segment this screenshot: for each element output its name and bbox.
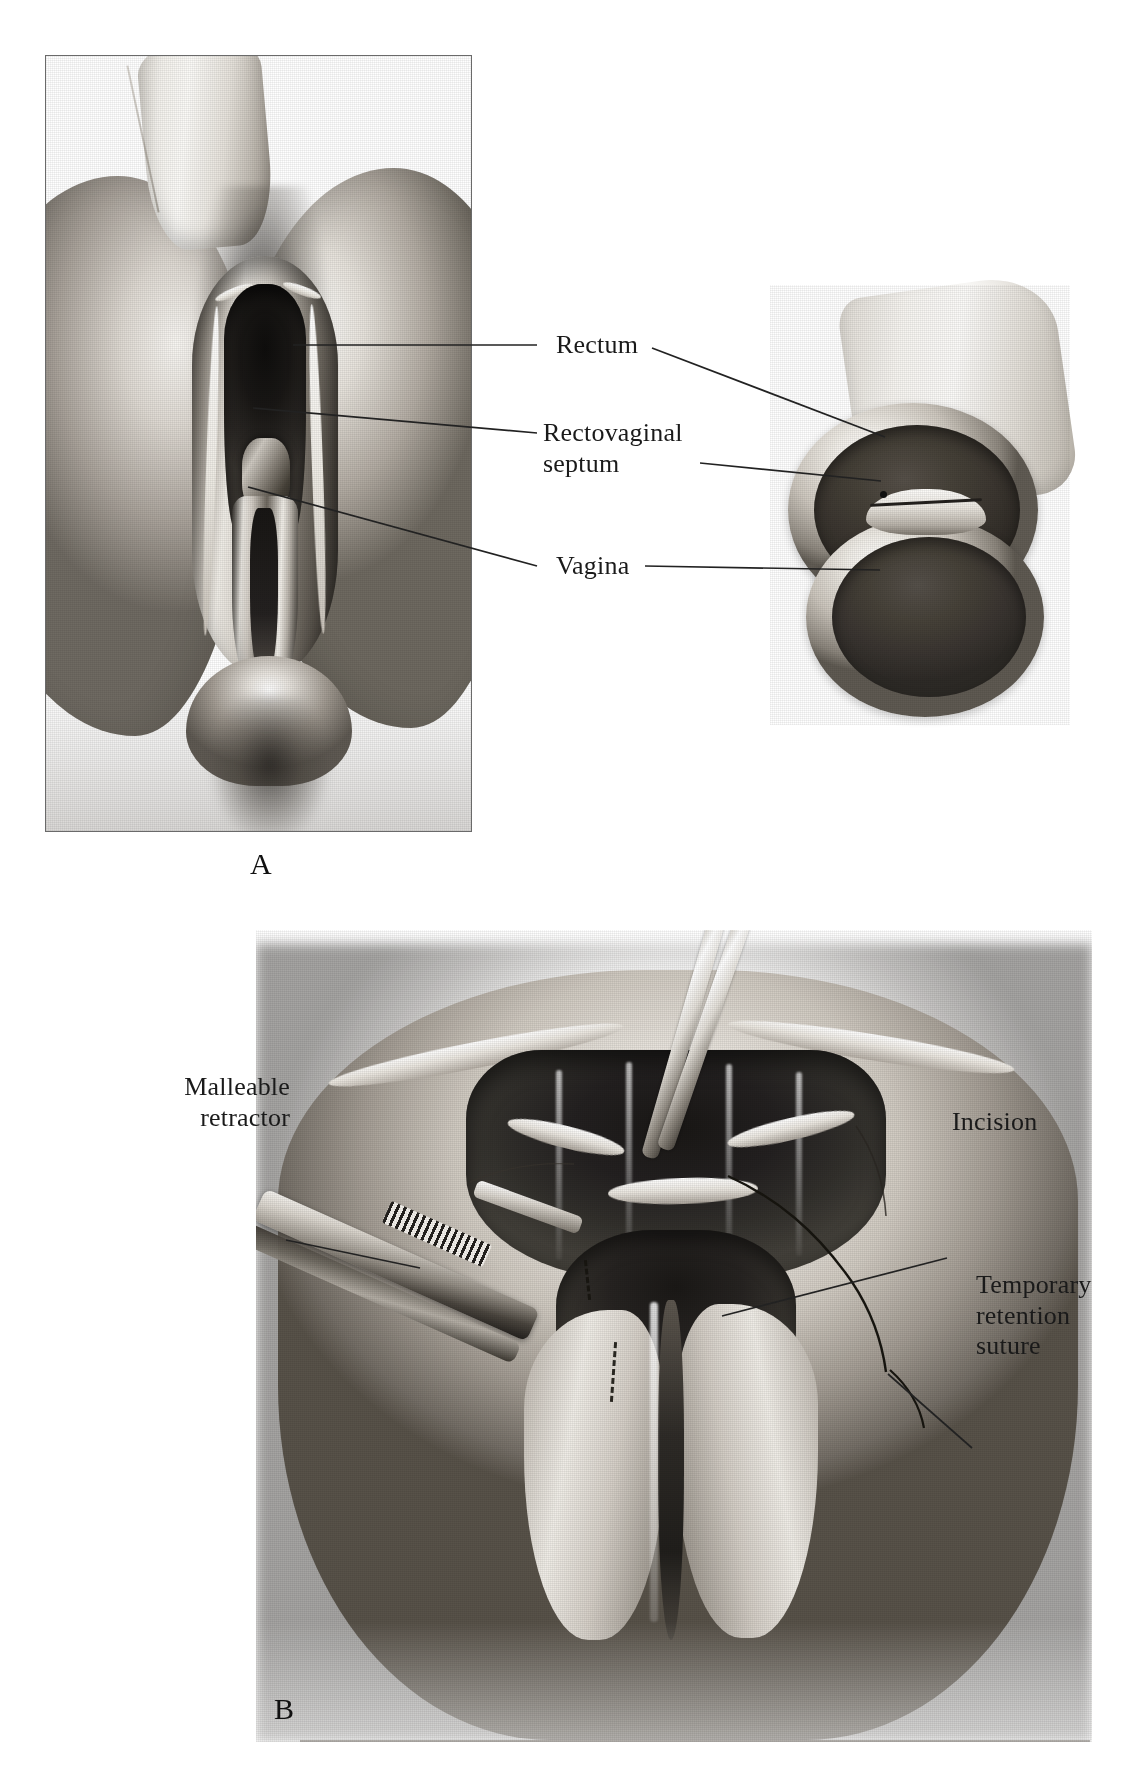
panel-b-baseline [300,1740,1090,1742]
introitus-midline-highlight [650,1302,658,1622]
panel-a-image-frame [45,55,472,832]
lower-shading [46,681,471,831]
introitus-midline [658,1300,684,1640]
panel-b-bottom-fade [256,1622,1092,1742]
label-rectum: Rectum [556,330,638,361]
figure-page: Rectum Rectovaginal septum Vagina Mallea… [0,0,1142,1766]
introitus-left-fold [524,1310,664,1640]
introitus-right-fold [676,1304,818,1638]
rectal-fold-1 [556,1070,562,1260]
vagina-lumen [832,537,1026,697]
rectal-fold-4 [796,1072,802,1256]
rectal-fold-3 [726,1064,732,1260]
label-malleable-retractor: Malleable retractor [120,1072,290,1133]
label-rectovaginal-septum: Rectovaginal septum [543,418,683,479]
label-incision: Incision [952,1107,1037,1138]
panel-letter-b: B [274,1692,294,1726]
cross-section-inset [770,285,1070,725]
label-temporary-retention-suture: Temporary retention suture [976,1270,1092,1362]
septum-point [880,491,887,498]
panel-b-illustration [256,930,1092,1742]
panel-letter-a: A [250,847,272,881]
panel-a-illustration [46,56,471,831]
label-vagina: Vagina [556,551,629,582]
